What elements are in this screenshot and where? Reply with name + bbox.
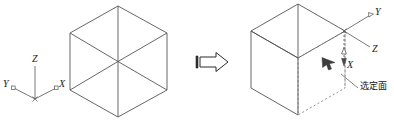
axis-x-arrowhead-upper xyxy=(342,48,347,55)
leader-line-segment xyxy=(341,74,358,88)
axis-y-arrowhead xyxy=(369,13,374,18)
cursor-arrow-shape xyxy=(322,58,335,71)
axis-y-line xyxy=(14,88,35,99)
mouse-cursor-arrow xyxy=(322,58,335,71)
axis-y-line-right xyxy=(344,14,372,31)
cube-selected-face[interactable] xyxy=(298,31,345,115)
right-panel-group xyxy=(251,4,374,115)
axis-x-endmarker xyxy=(55,86,59,90)
axis-x-arrowhead xyxy=(342,59,347,67)
isometric-cube-hexagon-left xyxy=(70,6,167,117)
cube-spoke-lower-right xyxy=(118,33,167,62)
screenshot-root: Z Y X Y Z X 选定面 xyxy=(0,0,394,123)
figure-canvas xyxy=(0,0,394,123)
rotated-axis-triad xyxy=(342,13,374,67)
axis-label-z-left: Z xyxy=(32,54,38,64)
selected-face-outline[interactable] xyxy=(298,31,345,115)
cube-spoke-mid-right xyxy=(118,62,167,91)
axis-label-x-left: X xyxy=(59,79,65,89)
cube-spoke-mid-left xyxy=(70,62,118,91)
axis-z-line-right xyxy=(344,31,370,47)
transition-block-arrow xyxy=(196,53,228,72)
axis-label-y-right: Y xyxy=(375,7,381,17)
axis-y-endmarker xyxy=(12,86,16,90)
selected-face-leader-line xyxy=(341,74,358,88)
cube-spoke-lower-left xyxy=(70,33,118,62)
world-axis-triad xyxy=(12,66,59,102)
cube-hidden-edges xyxy=(298,31,345,115)
cube-left-face xyxy=(251,31,298,115)
axis-x-line xyxy=(35,88,56,99)
axis-label-x-right: X xyxy=(347,60,353,70)
block-arrow-right-body xyxy=(200,53,228,72)
axis-label-y-left: Y xyxy=(3,79,9,89)
axis-label-z-right: Z xyxy=(372,44,378,54)
block-arrow-right-shape xyxy=(196,56,198,68)
selected-face-label: 选定面 xyxy=(360,82,387,91)
